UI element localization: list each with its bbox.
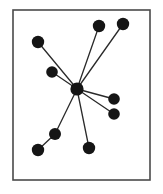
graph-node: [108, 108, 120, 120]
graph-node: [49, 128, 61, 140]
graph-node: [70, 82, 83, 95]
graph-node: [83, 142, 95, 154]
graph-node: [117, 18, 129, 30]
graph-node: [46, 66, 58, 78]
graph-node: [32, 36, 44, 48]
graph-node: [93, 20, 105, 32]
diagram-figure: [0, 0, 163, 194]
star-graph-canvas: [0, 0, 163, 194]
diagram-border: [13, 10, 150, 180]
graph-node: [32, 144, 44, 156]
graph-node: [108, 93, 120, 105]
